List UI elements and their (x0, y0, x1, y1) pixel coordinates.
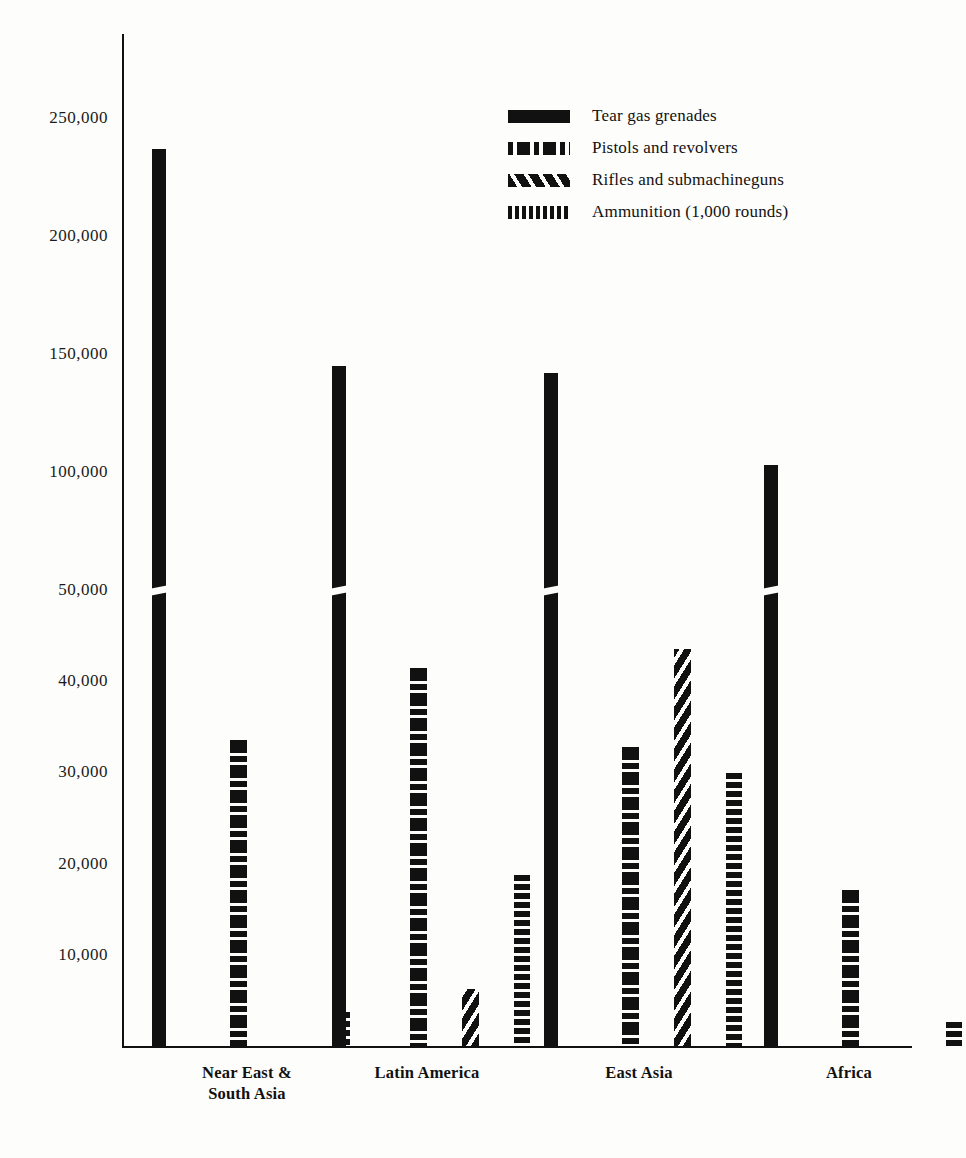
diagonal-hatch-swatch (508, 174, 570, 187)
x-axis-line (122, 1046, 912, 1048)
y-tick-label: 50,000 (58, 580, 108, 600)
bar (230, 740, 247, 1046)
bar (674, 649, 691, 1046)
y-tick-label: 40,000 (58, 671, 108, 691)
bar (332, 366, 346, 1046)
legend-item: Pistols and revolvers (508, 132, 788, 164)
y-tick-label: 30,000 (58, 762, 108, 782)
bar (726, 773, 742, 1046)
y-tick-label: 150,000 (49, 344, 108, 364)
bar-group (764, 34, 966, 1046)
solid-swatch (508, 110, 570, 123)
category-label: East Asia (539, 1062, 739, 1083)
legend-item: Ammunition (1,000 rounds) (508, 196, 788, 228)
bar (842, 890, 859, 1046)
chart-legend: Tear gas grenadesPistols and revolversRi… (508, 100, 788, 228)
category-label: Latin America (327, 1062, 527, 1083)
bar (410, 668, 427, 1046)
y-tick-label: 20,000 (58, 854, 108, 874)
y-tick-label: 250,000 (49, 108, 108, 128)
bar (462, 989, 479, 1046)
legend-label: Ammunition (1,000 rounds) (592, 202, 788, 222)
dash-dot-swatch (508, 142, 570, 155)
legend-item: Tear gas grenades (508, 100, 788, 132)
legend-label: Tear gas grenades (592, 106, 717, 126)
axis-break-marker (542, 585, 560, 595)
category-label: Africa (749, 1062, 949, 1083)
axis-break-marker (330, 585, 348, 595)
vertical-stripe-swatch (508, 206, 570, 219)
y-tick-label: 100,000 (49, 462, 108, 482)
legend-label: Pistols and revolvers (592, 138, 738, 158)
legend-label: Rifles and submachineguns (592, 170, 784, 190)
y-tick-label: 200,000 (49, 226, 108, 246)
axis-break-marker (150, 585, 168, 595)
axis-break-marker (762, 585, 780, 595)
bar (764, 465, 778, 1046)
bar (946, 1022, 962, 1046)
bar (152, 149, 166, 1046)
bar (514, 875, 530, 1046)
legend-item: Rifles and submachineguns (508, 164, 788, 196)
bar (544, 373, 558, 1046)
bar (622, 747, 639, 1046)
category-label: Near East & South Asia (147, 1062, 347, 1105)
y-tick-label: 10,000 (58, 945, 108, 965)
